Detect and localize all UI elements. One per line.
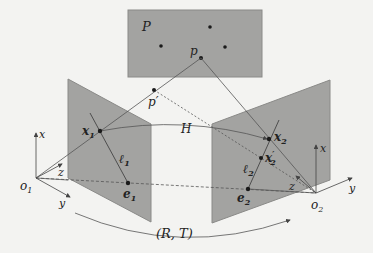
point-x1 — [98, 129, 102, 133]
label-axis-y2: y — [348, 182, 356, 195]
label-axis-z1: z — [57, 166, 64, 179]
scene-point-dot — [208, 25, 212, 29]
label-motion: (R, T) — [156, 226, 193, 241]
label-o1: o1 — [20, 179, 32, 195]
label-pprime: p′ — [148, 95, 159, 109]
label-axis-y1: y — [58, 197, 66, 210]
epipolar-diagram: P p p′ H x1 ℓ1 e1 x2 x′2 ℓ2 e2 o1 o2 x z… — [0, 0, 373, 253]
scene-point-dot — [159, 44, 163, 48]
label-axis-x2: x — [320, 142, 327, 155]
point-e2 — [246, 187, 250, 191]
label-o2: o2 — [311, 198, 323, 214]
diagram-canvas: P p p′ H x1 ℓ1 e1 x2 x′2 ℓ2 e2 o1 o2 x z… — [0, 0, 373, 253]
label-axis-z2: z — [288, 180, 295, 193]
label-H: H — [180, 122, 192, 136]
point-e1 — [126, 181, 130, 185]
label-p: p — [190, 44, 198, 58]
axis-y1 — [36, 178, 70, 197]
scene-point-dot — [223, 45, 227, 49]
label-axis-x1: x — [39, 128, 46, 141]
point-x2-prime — [259, 156, 263, 160]
left-image-plane — [68, 79, 151, 222]
point-x2 — [267, 137, 271, 141]
point-pprime — [152, 88, 156, 92]
label-scene-plane: P — [141, 19, 151, 34]
